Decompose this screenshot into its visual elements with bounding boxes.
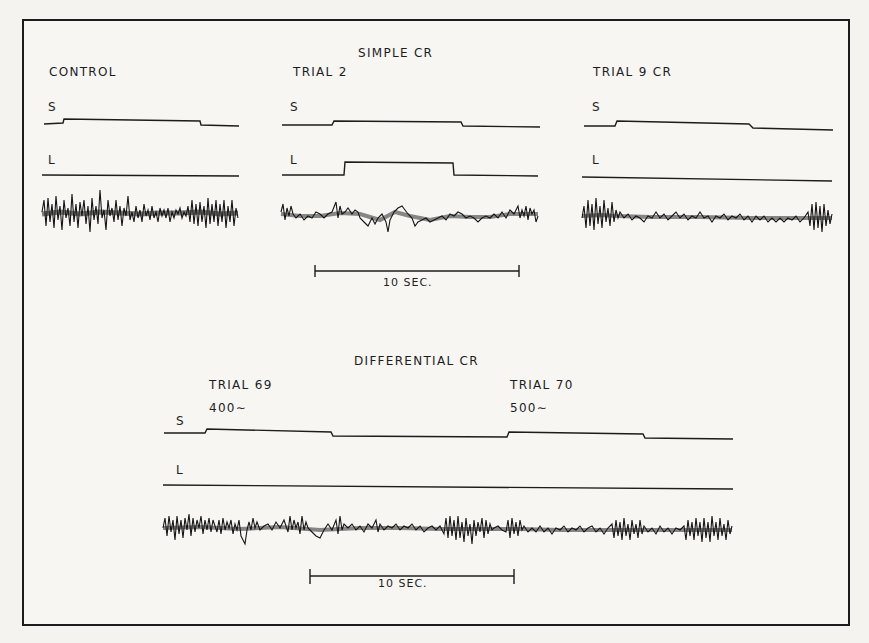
l-trace-differential <box>163 485 733 489</box>
scale-bar-simple <box>315 265 519 277</box>
s-trace-control <box>44 119 239 126</box>
emg-trace-control-body <box>42 212 238 214</box>
emg-trace-differential-body <box>163 527 732 530</box>
emg-trace-trial-9-body <box>582 215 832 218</box>
l-trace-trial-9 <box>582 177 832 181</box>
s-trace-trial-2 <box>282 121 540 127</box>
s-trace-trial-9 <box>584 121 833 130</box>
scale-bar-differential <box>310 569 514 584</box>
recording-traces <box>0 0 869 643</box>
s-trace-differential <box>164 429 733 439</box>
l-trace-trial-2 <box>282 162 538 176</box>
l-trace-control <box>42 175 239 176</box>
